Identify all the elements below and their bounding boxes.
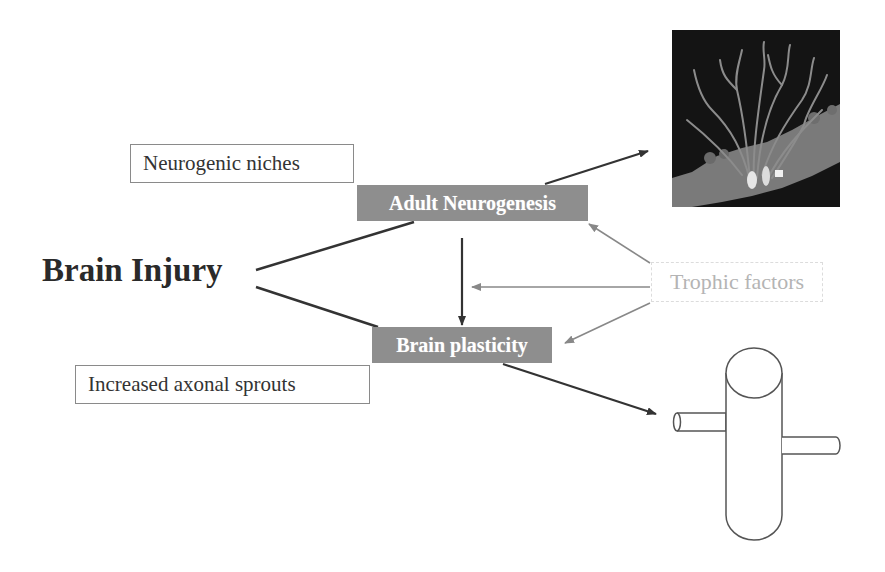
axon-schematic-image	[0, 0, 885, 572]
right-sprout-stub	[782, 437, 840, 454]
left-sprout-stub	[677, 413, 726, 431]
cylinder-top	[726, 348, 782, 398]
